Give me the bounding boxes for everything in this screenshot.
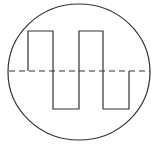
square-wave-diagram: [0, 0, 157, 146]
